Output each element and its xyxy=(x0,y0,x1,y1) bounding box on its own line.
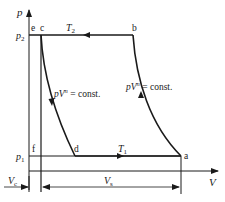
left-curve-label: pVn = const. xyxy=(53,87,100,99)
pv-diagram-svg: p V p2 p1 e c b f d a T2 T1 pVn = const.… xyxy=(0,0,225,202)
p2-label: p2 xyxy=(15,30,25,43)
point-a-label: a xyxy=(184,151,189,161)
vc-label: Vc xyxy=(8,175,17,188)
pv-diagram: p V p2 p1 e c b f d a T2 T1 pVn = const.… xyxy=(0,0,225,202)
point-d-label: d xyxy=(74,144,79,154)
vs-label: Vs xyxy=(104,175,113,188)
t2-label: T2 xyxy=(66,22,76,35)
p1-label: p1 xyxy=(15,151,25,164)
p-axis-label: p xyxy=(16,6,23,18)
right-curve-label: pVn = const. xyxy=(125,80,172,92)
point-e-label: e xyxy=(31,23,35,33)
point-f-label: f xyxy=(32,144,36,154)
point-c-label: c xyxy=(40,23,44,33)
arrow-left-icon xyxy=(83,32,90,38)
v-axis-label: V xyxy=(209,176,217,188)
point-b-label: b xyxy=(132,23,137,33)
